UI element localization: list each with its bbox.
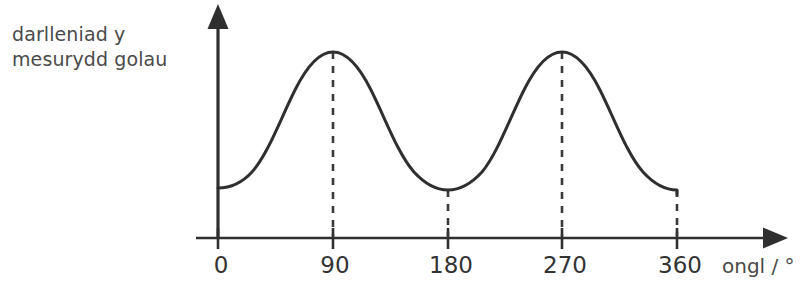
x-tick-label-90: 90: [320, 252, 349, 278]
x-tick-label-360: 360: [658, 252, 702, 278]
x-tick-label-0: 0: [214, 252, 229, 278]
x-tick-label-180: 180: [429, 252, 473, 278]
data-curve: [218, 52, 677, 195]
light-meter-reading-chart: darlleniad y mesurydd golau 0 90 18: [0, 0, 806, 289]
chart-canvas: [0, 0, 806, 289]
x-axis-label: ongl / °: [722, 254, 795, 278]
y-axis-arrowhead: [208, 4, 229, 29]
x-tick-label-270: 270: [543, 252, 587, 278]
x-axis-arrowhead: [763, 228, 788, 249]
